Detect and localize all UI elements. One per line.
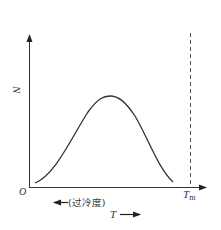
temperature-direction: T	[110, 208, 140, 220]
tm-label: Tm	[183, 188, 196, 202]
undercooling-annotation: (过冷度)	[54, 197, 105, 208]
temperature-label: T	[110, 208, 117, 220]
nucleation-rate-curve	[35, 96, 173, 183]
tm-label-subscript: m	[189, 193, 196, 202]
undercooling-label: (过冷度)	[68, 197, 105, 208]
y-axis-label: N	[11, 85, 23, 94]
origin-label: O	[19, 186, 26, 197]
diagram-canvas: N O Tm (过冷度) T	[0, 0, 221, 230]
nucleation-diagram: N O Tm (过冷度) T	[0, 0, 221, 230]
